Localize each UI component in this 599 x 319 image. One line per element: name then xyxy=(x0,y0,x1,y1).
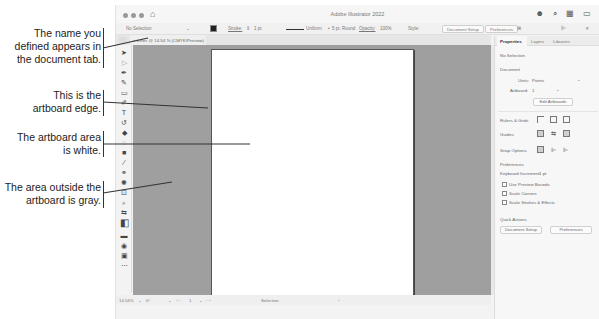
pen-tool-icon[interactable]: ✒ xyxy=(119,68,129,78)
paintbrush-tool-icon[interactable]: ✐ xyxy=(119,98,129,108)
quick-preferences-button[interactable]: Preferences xyxy=(550,226,592,234)
callout-line: the document tab. xyxy=(15,53,101,66)
tab-layers[interactable]: Layers xyxy=(531,39,544,44)
show-guides-icon[interactable] xyxy=(537,130,544,137)
artboard-nav-next[interactable]: › » xyxy=(206,298,211,303)
callout-line: The name you xyxy=(15,27,101,40)
close-tab-icon[interactable]: × xyxy=(133,38,136,43)
control-bar: No Selection ⌄ Stroke: ⇕ 1 pt Uniform • … xyxy=(116,23,599,35)
rulers-icon[interactable] xyxy=(537,116,544,123)
grid-icon[interactable] xyxy=(550,116,557,123)
artboard[interactable] xyxy=(211,49,414,303)
eyedropper-tool-icon[interactable]: ⁄ xyxy=(119,158,129,168)
fill-swatch[interactable] xyxy=(210,25,217,32)
artboard-number[interactable]: 1 xyxy=(189,298,191,303)
scale-corners-label[interactable]: Scale Corners xyxy=(509,191,537,196)
stroke-label[interactable]: Stroke: xyxy=(228,26,242,31)
rectangle-tool-icon[interactable]: ▭ xyxy=(119,88,129,98)
blend-tool-icon[interactable]: ⚭ xyxy=(119,168,129,178)
panel-icon[interactable]: ▭ xyxy=(583,9,591,19)
preferences-button[interactable]: Preferences xyxy=(485,25,518,33)
callout-line: defined appears in xyxy=(15,40,101,53)
artboard-tool-icon[interactable]: ⊡ xyxy=(119,188,129,198)
artboard-select[interactable]: 1 xyxy=(532,88,534,93)
symbol-sprayer-tool-icon[interactable]: ✺ xyxy=(119,178,129,188)
callout-line: The area outside the xyxy=(5,181,101,194)
callout-document-tab: The name you defined appears in the docu… xyxy=(15,27,105,66)
stroke-profile[interactable]: Uniform xyxy=(306,26,322,31)
chevron-down-icon[interactable]: ⌄ xyxy=(556,87,559,92)
rulers-grids-label: Rulers & Grids xyxy=(500,118,529,123)
shape-builder-tool-icon[interactable]: ◌ xyxy=(119,138,129,148)
chevron-down-icon[interactable]: ⌄ xyxy=(199,298,202,303)
chevron-down-icon[interactable]: ⌄ xyxy=(138,298,141,303)
menu-icon[interactable]: ≡ xyxy=(586,26,589,31)
pencil-tool-icon[interactable]: ✎ xyxy=(119,78,129,88)
chevron-down-icon[interactable]: ⌄ xyxy=(168,298,171,303)
quick-document-setup-button[interactable]: Document Setup xyxy=(500,226,542,234)
screen-mode-icon[interactable]: ▣ xyxy=(119,251,129,261)
chevron-down-icon[interactable]: ⌄ xyxy=(186,26,190,31)
user-icon[interactable]: ☻ xyxy=(536,9,544,19)
eraser-tool-icon[interactable]: ◆ xyxy=(119,128,129,138)
use-preview-bounds-checkbox[interactable] xyxy=(502,182,507,187)
zoom-level[interactable]: 14.54% xyxy=(119,298,134,303)
status-menu-icon[interactable]: › xyxy=(338,298,339,303)
document-tab[interactable]: × Lines @ 14.54 % (CMYK/Preview) xyxy=(130,35,206,45)
collapse-tools-button[interactable] xyxy=(119,37,127,43)
opacity-value[interactable]: 100% xyxy=(380,26,392,31)
scale-corners-checkbox[interactable] xyxy=(502,191,507,196)
color-modes-icon[interactable]: ▬ xyxy=(119,231,129,241)
align-icon[interactable]: ⊫ xyxy=(561,24,566,31)
zoom-tool-icon[interactable]: ⌕ xyxy=(119,198,129,208)
keyboard-increment-label: Keyboard Increment: xyxy=(500,171,541,176)
opacity-label[interactable]: Opacity: xyxy=(359,26,376,31)
direct-selection-tool-icon[interactable]: ▷ xyxy=(119,58,129,68)
tools-panel: ➤ ▷ ✒ ✎ ▭ ✐ T ↺ ◆ ◌ ■ ⁄ ⚭ ✺ ⊡ ⌕ ⇆ ◧ ▬ ◉ … xyxy=(116,45,132,293)
app-title: Adobe Illustrator 2022 xyxy=(116,11,599,17)
stroke-weight[interactable]: 1 pt xyxy=(254,26,262,31)
artboard-nav-prev[interactable]: « ‹ xyxy=(176,298,181,303)
rotation-value[interactable]: 0° xyxy=(146,298,150,303)
rotate-tool-icon[interactable]: ↺ xyxy=(119,118,129,128)
snap-to-point-icon[interactable] xyxy=(537,146,544,153)
style-label[interactable]: Style: xyxy=(408,26,419,31)
workspace-icon[interactable]: ▦ xyxy=(566,9,574,19)
scale-strokes-effects-label[interactable]: Scale Strokes & Effects xyxy=(509,200,555,205)
use-preview-bounds-label[interactable]: Use Preview Bounds xyxy=(509,182,550,187)
arrange-icon[interactable]: ⊞ xyxy=(517,26,521,31)
chevron-down-icon[interactable]: ⌄ xyxy=(577,77,580,82)
guides-label: Guides xyxy=(500,132,514,137)
keyboard-increment-value[interactable]: 1 pt xyxy=(539,171,546,176)
document-setup-button[interactable]: Document Setup xyxy=(442,25,484,33)
title-bar: ⌂ Adobe Illustrator 2022 ☻ ⌕ ▦ ▭ xyxy=(116,5,599,23)
divider xyxy=(498,111,598,112)
drawing-modes-icon[interactable]: ◉ xyxy=(119,241,129,251)
illustrator-window: ⌂ Adobe Illustrator 2022 ☻ ⌕ ▦ ▭ No Sele… xyxy=(115,5,599,319)
callout-bracket xyxy=(103,181,104,208)
callout-line: artboard edge. xyxy=(33,102,101,115)
tool-mode: Selection xyxy=(261,298,279,303)
callout-artboard-edge: This is the artboard edge. xyxy=(33,89,105,115)
properties-panel: Properties Layers Libraries No Selection… xyxy=(494,36,599,319)
brush-definition[interactable]: 5 pt. Round xyxy=(332,26,355,31)
type-tool-icon[interactable]: T xyxy=(119,108,129,118)
selection-tool-icon[interactable]: ➤ xyxy=(119,48,129,58)
stroke-stepper-icon[interactable]: ⇕ xyxy=(246,26,250,31)
callout-area-gray: The area outside the artboard is gray. xyxy=(5,181,105,207)
pixel-grid-icon[interactable] xyxy=(563,116,570,123)
search-icon[interactable]: ⌕ xyxy=(553,9,557,19)
gradient-tool-icon[interactable]: ■ xyxy=(119,148,129,158)
more-tools-icon[interactable]: ⋯ xyxy=(119,261,129,271)
canvas-pasteboard[interactable] xyxy=(133,45,491,295)
snap-to-pixel-icon[interactable]: ⊫ xyxy=(563,146,568,153)
scale-strokes-effects-checkbox[interactable] xyxy=(502,200,507,205)
tab-libraries[interactable]: Libraries xyxy=(553,39,570,44)
smart-guides-icon[interactable] xyxy=(563,130,570,137)
snap-to-grid-icon[interactable]: ⊫ xyxy=(551,146,556,153)
edit-artboards-button[interactable]: Edit Artboards xyxy=(533,98,573,106)
lock-guides-icon[interactable]: ⇆ xyxy=(551,130,556,137)
tab-properties[interactable]: Properties xyxy=(500,39,522,44)
units-select[interactable]: Points xyxy=(532,78,544,83)
fill-stroke-icon[interactable]: ◧ xyxy=(119,218,129,228)
